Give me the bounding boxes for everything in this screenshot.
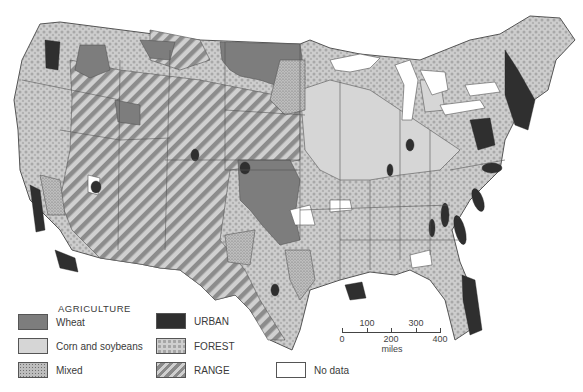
- legend-item-urban: URBAN: [156, 313, 229, 329]
- scale-tick: [440, 328, 441, 333]
- scale-tick: [391, 328, 392, 333]
- scale-tick: [416, 328, 417, 333]
- mixed-swatch: [18, 362, 48, 378]
- legend-label: Mixed: [56, 365, 83, 376]
- scale-bar: 100 300 0 200 400 miles: [340, 320, 450, 360]
- range-swatch: [156, 362, 186, 378]
- legend-label: Wheat: [56, 317, 85, 328]
- scale-label-200: 200: [383, 334, 398, 344]
- scale-label-0: 0: [339, 334, 344, 344]
- legend-label: URBAN: [194, 316, 229, 327]
- legend-label: No data: [314, 365, 349, 376]
- corn-soybeans-swatch: [18, 338, 48, 354]
- us-land-use-map: [0, 0, 583, 392]
- scale-label-400: 400: [432, 334, 447, 344]
- legend-agriculture-title: AGRICULTURE: [58, 303, 131, 314]
- scale-tick: [342, 328, 343, 333]
- legend-label: Corn and soybeans: [56, 341, 143, 352]
- legend-item-range: RANGE: [156, 362, 230, 378]
- urban-swatch: [156, 313, 186, 329]
- no-data-swatch: [276, 362, 306, 378]
- scale-tick: [367, 328, 368, 333]
- legend-label: FOREST: [194, 341, 235, 352]
- forest-swatch: [156, 338, 186, 354]
- region-mixed-nm: [225, 230, 255, 265]
- scale-label-300: 300: [408, 318, 423, 328]
- legend-label: RANGE: [194, 365, 230, 376]
- legend-item-wheat: Wheat: [18, 314, 85, 330]
- scale-label-100: 100: [359, 318, 374, 328]
- legend-item-no-data: No data: [276, 362, 349, 378]
- legend-item-forest: FOREST: [156, 338, 235, 354]
- wheat-swatch: [18, 314, 48, 330]
- legend-item-mixed: Mixed: [18, 362, 83, 378]
- legend-item-corn-soybeans: Corn and soybeans: [18, 338, 143, 354]
- scale-unit: miles: [381, 344, 402, 354]
